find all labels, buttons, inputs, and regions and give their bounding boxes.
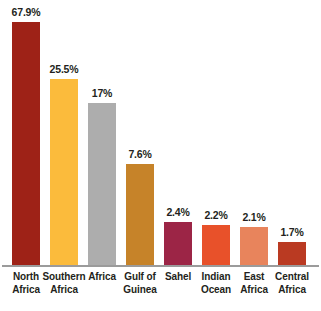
bar-group: 2.2%: [197, 0, 235, 266]
category-labels: North Africa Southern Africa Africa Gulf…: [0, 271, 321, 311]
bar-group: 67.9%: [7, 0, 45, 266]
bar: [88, 103, 116, 266]
bar: [202, 225, 230, 266]
bar-value-label: 17%: [83, 87, 121, 99]
x-axis-line: [2, 265, 319, 267]
bar-group: 1.7%: [273, 0, 311, 266]
bar-chart: 67.9% 25.5% 17% 7.6% 2.4% 2.2% 2.1%: [0, 0, 321, 311]
plot-area: 67.9% 25.5% 17% 7.6% 2.4% 2.2% 2.1%: [0, 0, 321, 266]
category-label: Central Africa: [270, 271, 314, 296]
bar-value-label: 67.9%: [7, 6, 45, 18]
bar-value-label: 7.6%: [121, 148, 159, 160]
bar-group: 25.5%: [45, 0, 83, 266]
bar-group: 2.1%: [235, 0, 273, 266]
bar-group: 2.4%: [159, 0, 197, 266]
bar: [50, 79, 78, 266]
bar-value-label: 2.2%: [197, 209, 235, 221]
category-label-line: Central: [270, 271, 314, 284]
category-label-line: Africa: [270, 284, 314, 297]
bar-value-label: 1.7%: [273, 226, 311, 238]
bar-group: 17%: [83, 0, 121, 266]
bar: [278, 242, 306, 266]
bar-value-label: 2.4%: [159, 206, 197, 218]
category-label-line: Africa: [42, 284, 86, 297]
bar-value-label: 2.1%: [235, 211, 273, 223]
category-label-line: Guinea: [118, 284, 162, 297]
bar-group: 7.6%: [121, 0, 159, 266]
bar: [126, 164, 154, 266]
bar: [12, 22, 40, 266]
bar: [164, 222, 192, 266]
bar-value-label: 25.5%: [45, 63, 83, 75]
bar: [240, 227, 268, 266]
